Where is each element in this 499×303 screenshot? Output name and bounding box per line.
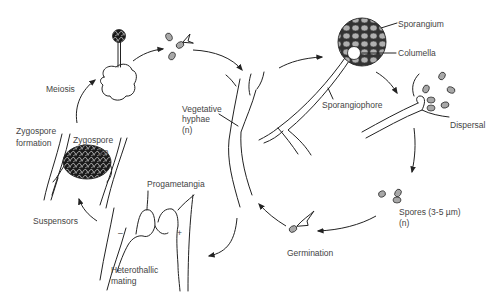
leader-sporangiophore xyxy=(328,88,333,99)
label-heterothallic-2: mating xyxy=(111,276,137,286)
label-heterothallic-1: Heterothallic xyxy=(111,265,159,275)
arrow-germination-to-hyphae xyxy=(259,204,286,226)
arrow-meiosis-to-spores xyxy=(133,49,163,61)
arrow-dispersal-to-spores xyxy=(412,128,415,172)
leader-suspensors xyxy=(51,178,58,200)
label-zygospore-formation-2: formation xyxy=(16,138,52,148)
label-minus: – xyxy=(118,228,123,238)
label-columella: Columella xyxy=(398,48,436,58)
label-spores-2: (n) xyxy=(399,218,410,228)
label-vegetative-3: (n) xyxy=(182,125,193,135)
meiospores xyxy=(165,32,193,61)
label-germination: Germination xyxy=(287,248,334,258)
sporangium xyxy=(338,18,386,66)
zygospore-formation xyxy=(44,134,127,208)
arrow-sporangium-to-dispersal xyxy=(376,72,397,93)
zygomycete-life-cycle-diagram: Meiosis Vegetative hyphae (n) Sporangium… xyxy=(0,0,499,303)
germinating-zygospore xyxy=(100,30,136,101)
spores xyxy=(378,188,403,203)
leader-sporangium xyxy=(381,23,397,28)
label-zygospore: Zygospore xyxy=(73,135,113,145)
arrow-zygospore-to-meiosis xyxy=(76,80,95,123)
label-zygospore-formation-1: Zygospore xyxy=(16,126,56,136)
leader-vegetative xyxy=(219,114,238,126)
label-dispersal: Dispersal xyxy=(450,120,486,130)
label-plus: + xyxy=(177,228,182,238)
germinating-spore xyxy=(288,211,314,234)
label-spores-1: Spores (3-5 µm) xyxy=(399,207,461,217)
label-vegetative-1: Vegetative xyxy=(182,104,222,114)
label-sporangiophore: Sporangiophore xyxy=(322,100,383,110)
label-2n: 2n xyxy=(99,147,109,157)
arrow-hyphae-to-mating xyxy=(209,218,237,256)
label-sporangium: Sporangium xyxy=(398,19,444,29)
arrow-spores-to-germination xyxy=(318,216,376,231)
columella xyxy=(348,47,361,60)
label-vegetative-2: hyphae xyxy=(182,114,210,124)
arrow-spores-to-hyphae xyxy=(193,50,242,70)
arrow-hyphae-to-sporangium xyxy=(279,57,322,68)
label-suspensors: Suspensors xyxy=(33,216,78,226)
label-meiosis: Meiosis xyxy=(46,84,75,94)
vegetative-hyphae xyxy=(226,72,264,207)
label-progametangia: Progametangia xyxy=(147,179,205,189)
arrow-mating-to-zygospore xyxy=(79,199,97,221)
